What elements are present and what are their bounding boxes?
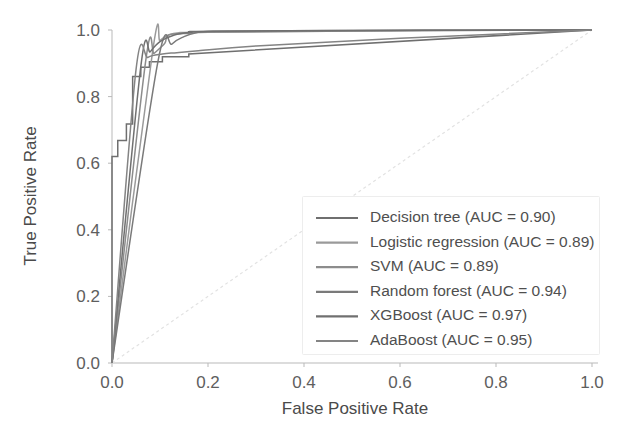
legend-label-random-forest: Random forest (AUC = 0.94) (370, 282, 567, 299)
legend-label-logistic-regression: Logistic regression (AUC = 0.89) (370, 233, 594, 250)
x-axis-ticks (112, 363, 592, 367)
x-tick-label: 1.0 (580, 373, 604, 392)
legend-label-adaboost: AdaBoost (AUC = 0.95) (370, 331, 532, 348)
y-axis-tick-labels: 0.00.20.40.60.81.0 (76, 21, 100, 373)
y-tick-label: 0.0 (76, 354, 100, 373)
y-tick-label: 0.4 (76, 221, 100, 240)
x-tick-label: 0.8 (484, 373, 508, 392)
y-axis-title: True Positive Rate (21, 126, 40, 265)
x-tick-label: 0.0 (100, 373, 124, 392)
y-tick-label: 1.0 (76, 21, 100, 40)
x-tick-label: 0.2 (196, 373, 220, 392)
y-tick-label: 0.6 (76, 154, 100, 173)
roc-curve-figure: 0.00.20.40.60.81.0 0.00.20.40.60.81.0 De… (0, 0, 639, 446)
chart-canvas: 0.00.20.40.60.81.0 0.00.20.40.60.81.0 De… (0, 0, 639, 446)
x-tick-label: 0.6 (388, 373, 412, 392)
x-axis-tick-labels: 0.00.20.40.60.81.0 (100, 373, 604, 392)
x-axis-title: False Positive Rate (282, 399, 428, 418)
chart-legend[interactable]: Decision tree (AUC = 0.90)Logistic regre… (303, 197, 600, 355)
x-tick-label: 0.4 (292, 373, 316, 392)
legend-label-svm: SVM (AUC = 0.89) (370, 257, 499, 274)
y-tick-label: 0.2 (76, 287, 100, 306)
y-tick-label: 0.8 (76, 88, 100, 107)
legend-label-xgboost: XGBoost (AUC = 0.97) (370, 306, 527, 323)
legend-label-decision-tree: Decision tree (AUC = 0.90) (370, 208, 556, 225)
